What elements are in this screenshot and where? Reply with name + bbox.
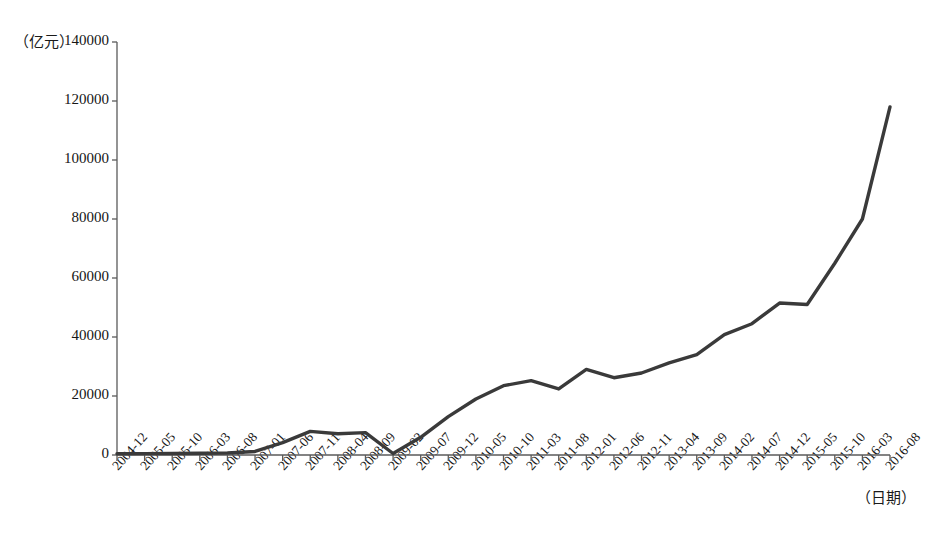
line-chart: （亿元） （日期） 020000400006000080000100000120… — [0, 0, 940, 554]
x-axis-ticks — [117, 455, 890, 461]
plot-area — [0, 0, 940, 554]
data-series-line — [117, 107, 890, 454]
y-axis-ticks — [112, 42, 117, 455]
axes — [117, 42, 890, 455]
data-series-group — [117, 107, 890, 454]
